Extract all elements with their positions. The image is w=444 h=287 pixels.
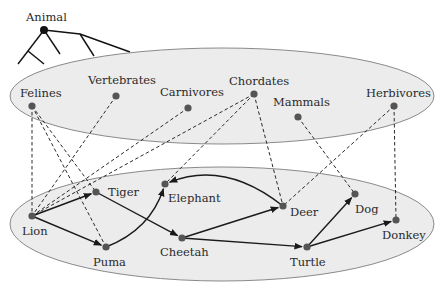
felines-label: Felines xyxy=(20,86,62,100)
cheetah-label: Cheetah xyxy=(160,245,209,259)
herbivores-label: Herbivores xyxy=(366,86,431,100)
diagram-canvas: Animal FelinesVertebratesCarnivoresChord… xyxy=(0,0,444,287)
puma-dot xyxy=(102,243,109,250)
carnivores-dot xyxy=(184,104,191,111)
animal-label: Animal xyxy=(25,10,67,24)
deer-label: Deer xyxy=(290,205,319,219)
elephant-label: Elephant xyxy=(168,191,221,205)
layered-graph-diagram: Animal FelinesVertebratesCarnivoresChord… xyxy=(0,0,444,287)
lion-label: Lion xyxy=(22,224,48,238)
cheetah-dot xyxy=(178,234,185,241)
puma-label: Puma xyxy=(93,255,126,269)
vertebrates-label: Vertebrates xyxy=(87,73,156,87)
donkey-dot xyxy=(392,216,399,223)
mammals-dot xyxy=(294,113,301,120)
instances-layer-ellipse xyxy=(10,167,434,281)
donkey-label: Donkey xyxy=(382,228,426,242)
mammals-label: Mammals xyxy=(273,95,330,109)
chordates-dot xyxy=(250,90,257,97)
dog-dot xyxy=(351,190,358,197)
lion-dot xyxy=(28,212,35,219)
dog-label: Dog xyxy=(355,202,379,216)
animal-root-node xyxy=(40,26,48,34)
elephant-dot xyxy=(161,180,168,187)
turtle-dot xyxy=(303,243,310,250)
tiger-label: Tiger xyxy=(108,185,140,199)
chordates-label: Chordates xyxy=(229,74,289,88)
tiger-dot xyxy=(92,188,99,195)
deer-dot xyxy=(279,202,286,209)
felines-dot xyxy=(28,102,35,109)
herbivores-dot xyxy=(390,102,397,109)
turtle-label: Turtle xyxy=(290,255,326,269)
carnivores-label: Carnivores xyxy=(160,85,224,99)
vertebrates-dot xyxy=(112,92,119,99)
